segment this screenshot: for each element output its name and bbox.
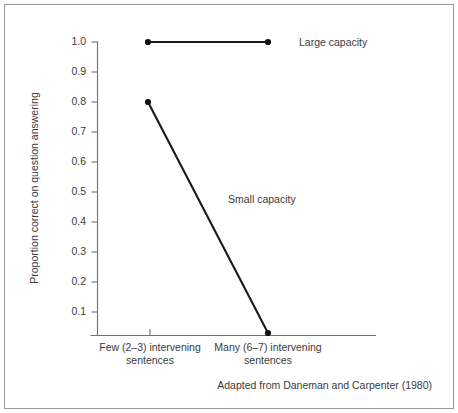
y-tick-label-0.7: 0.7 — [71, 125, 86, 137]
chart-canvas: 1.0 0.9 0.8 0.7 0.6 0.5 0.4 0.3 0.2 0.1 … — [0, 0, 458, 413]
y-tick-label-0.6: 0.6 — [71, 155, 86, 167]
series-line-small-capacity — [148, 102, 268, 333]
series-label-small-capacity: Small capacity — [228, 193, 296, 205]
y-tick-label-1.0: 1.0 — [71, 35, 86, 47]
y-tick-label-0.2: 0.2 — [71, 275, 86, 287]
y-tick-label-0.5: 0.5 — [71, 185, 86, 197]
x-category-label-few-line1: Few (2–3) intervening — [99, 341, 201, 353]
figure-container: 1.0 0.9 0.8 0.7 0.6 0.5 0.4 0.3 0.2 0.1 … — [0, 0, 458, 413]
y-tick-label-0.4: 0.4 — [71, 215, 86, 227]
y-tick-label-0.3: 0.3 — [71, 245, 86, 257]
series-point-large-capacity-few — [145, 39, 151, 45]
series-point-small-capacity-few — [145, 99, 151, 105]
y-tick-label-0.8: 0.8 — [71, 95, 86, 107]
x-category-label-few-line2: sentences — [126, 354, 174, 366]
series-label-large-capacity: Large capacity — [299, 36, 368, 48]
x-category-label-many-line1: Many (6–7) intervening — [214, 341, 322, 353]
y-tick-label-0.9: 0.9 — [71, 65, 86, 77]
series-point-small-capacity-many — [265, 330, 271, 336]
source-credit: Adapted from Daneman and Carpenter (1980… — [217, 379, 432, 391]
y-axis-title: Proportion correct on question answering — [28, 92, 40, 284]
x-category-label-many-line2: sentences — [244, 354, 292, 366]
series-point-large-capacity-many — [265, 39, 271, 45]
y-tick-label-0.1: 0.1 — [71, 305, 86, 317]
